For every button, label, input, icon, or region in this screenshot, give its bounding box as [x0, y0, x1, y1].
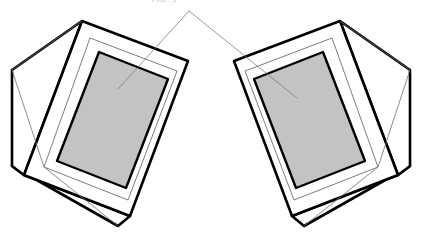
right-device [234, 21, 410, 226]
left-device [12, 21, 188, 226]
technical-figure: FIG. 1 [0, 0, 422, 236]
figure-canvas [0, 0, 422, 236]
